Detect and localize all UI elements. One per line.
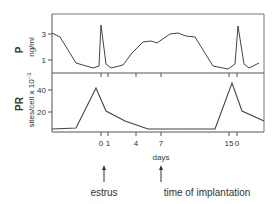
estrus-label: estrus — [90, 187, 117, 198]
x-tick-label: 15 — [225, 139, 234, 148]
x-tick-label: 1 — [106, 139, 111, 148]
implantation-label: time of implantation — [164, 187, 251, 198]
pr-series-line — [52, 83, 264, 129]
pr-y-ticks: 40 20 — [37, 86, 52, 117]
x-tick-label: 7 — [159, 139, 164, 148]
pr-units-text: sites/cell x 10 — [27, 79, 36, 128]
pr-units-exp: −3 — [26, 72, 32, 80]
p-y-ticks: 3 1 — [42, 30, 52, 65]
plot-frames — [52, 14, 264, 132]
x-tick-label: 0 — [99, 139, 104, 148]
x-axis-ticks: 0147150 — [99, 73, 240, 148]
pr-tick-40: 40 — [37, 86, 46, 95]
pr-axis-title: PR — [14, 96, 25, 111]
arrow-up-icon — [102, 165, 106, 182]
p-tick-3: 3 — [42, 30, 47, 39]
x-axis-title: days — [153, 153, 170, 162]
pr-tick-20: 20 — [37, 108, 46, 117]
chart-svg: 3 1 40 20 P ng/ml PR sites/cell x 10−3 0… — [0, 0, 277, 204]
p-tick-1: 1 — [42, 56, 47, 65]
p-axis-units: ng/ml — [27, 37, 36, 57]
p-axis-title: P — [14, 46, 25, 53]
x-tick-label: 4 — [134, 139, 139, 148]
p-series-line — [52, 25, 259, 69]
pr-axis-units: sites/cell x 10−3 — [26, 72, 36, 128]
x-tick-label: 0 — [235, 139, 240, 148]
arrow-up-icon — [159, 165, 163, 182]
